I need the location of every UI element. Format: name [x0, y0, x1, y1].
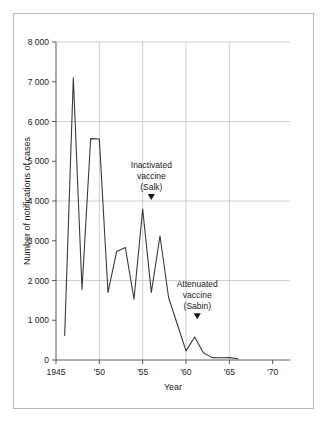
x-tick-label: '65 — [224, 367, 235, 377]
annotation-label-line: vaccine — [183, 290, 212, 300]
x-tick-label: '55 — [137, 367, 148, 377]
annotation-down-triangle-icon — [148, 194, 155, 200]
annotation-label-line: Inactivated — [131, 160, 172, 170]
y-tick-label: 8 000 — [28, 37, 50, 47]
x-tick-label: '70 — [267, 367, 278, 377]
y-axis-title: Number of notifications of cases — [22, 136, 32, 265]
y-tick-label: 2 000 — [28, 276, 50, 286]
data-series-line — [65, 78, 238, 359]
x-tick-label: 1945 — [47, 367, 66, 377]
annotation-label-line: (Salk) — [140, 182, 162, 192]
y-tick-label: 7 000 — [28, 77, 50, 87]
annotation-down-triangle-icon — [194, 313, 201, 319]
annotation-label-line: vaccine — [137, 171, 166, 181]
annotation-sabin: Attenuatedvaccine(Sabin) — [177, 279, 218, 319]
y-tick-label: 6 000 — [28, 117, 50, 127]
annotation-label-line: Attenuated — [177, 279, 218, 289]
annotation-label-line: (Sabin) — [184, 301, 212, 311]
y-tick-label: 0 — [44, 355, 49, 365]
x-tick-label: '60 — [180, 367, 191, 377]
x-axis-title: Year — [164, 382, 182, 392]
y-tick-label: 1 000 — [28, 315, 50, 325]
figure-container: 01 0002 0003 0004 0005 0006 0007 0008 00… — [0, 0, 328, 423]
annotation-salk: Inactivatedvaccine(Salk) — [131, 160, 172, 200]
x-tick-label: '50 — [94, 367, 105, 377]
line-chart: 01 0002 0003 0004 0005 0006 0007 0008 00… — [0, 0, 328, 423]
